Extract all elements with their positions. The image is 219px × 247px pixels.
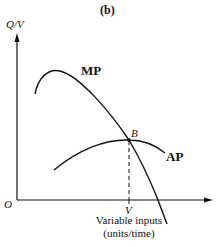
y-axis-arrow-icon [15, 33, 20, 42]
ap-curve [54, 140, 165, 170]
origin-label: O [4, 199, 12, 210]
ap-curve-label: AP [166, 150, 183, 163]
x-axis-label-line2: (units/time) [79, 228, 179, 239]
mp-curve-label: MP [81, 64, 101, 77]
panel-label: (b) [100, 4, 115, 16]
y-axis-label: Q/V [6, 19, 24, 30]
x-axis-arrow-icon [204, 198, 213, 203]
x-axis-label-line1: Variable inputs [79, 215, 179, 226]
diagram-canvas [0, 0, 219, 247]
point-b-label: B [131, 128, 138, 139]
mp-curve [35, 70, 167, 224]
